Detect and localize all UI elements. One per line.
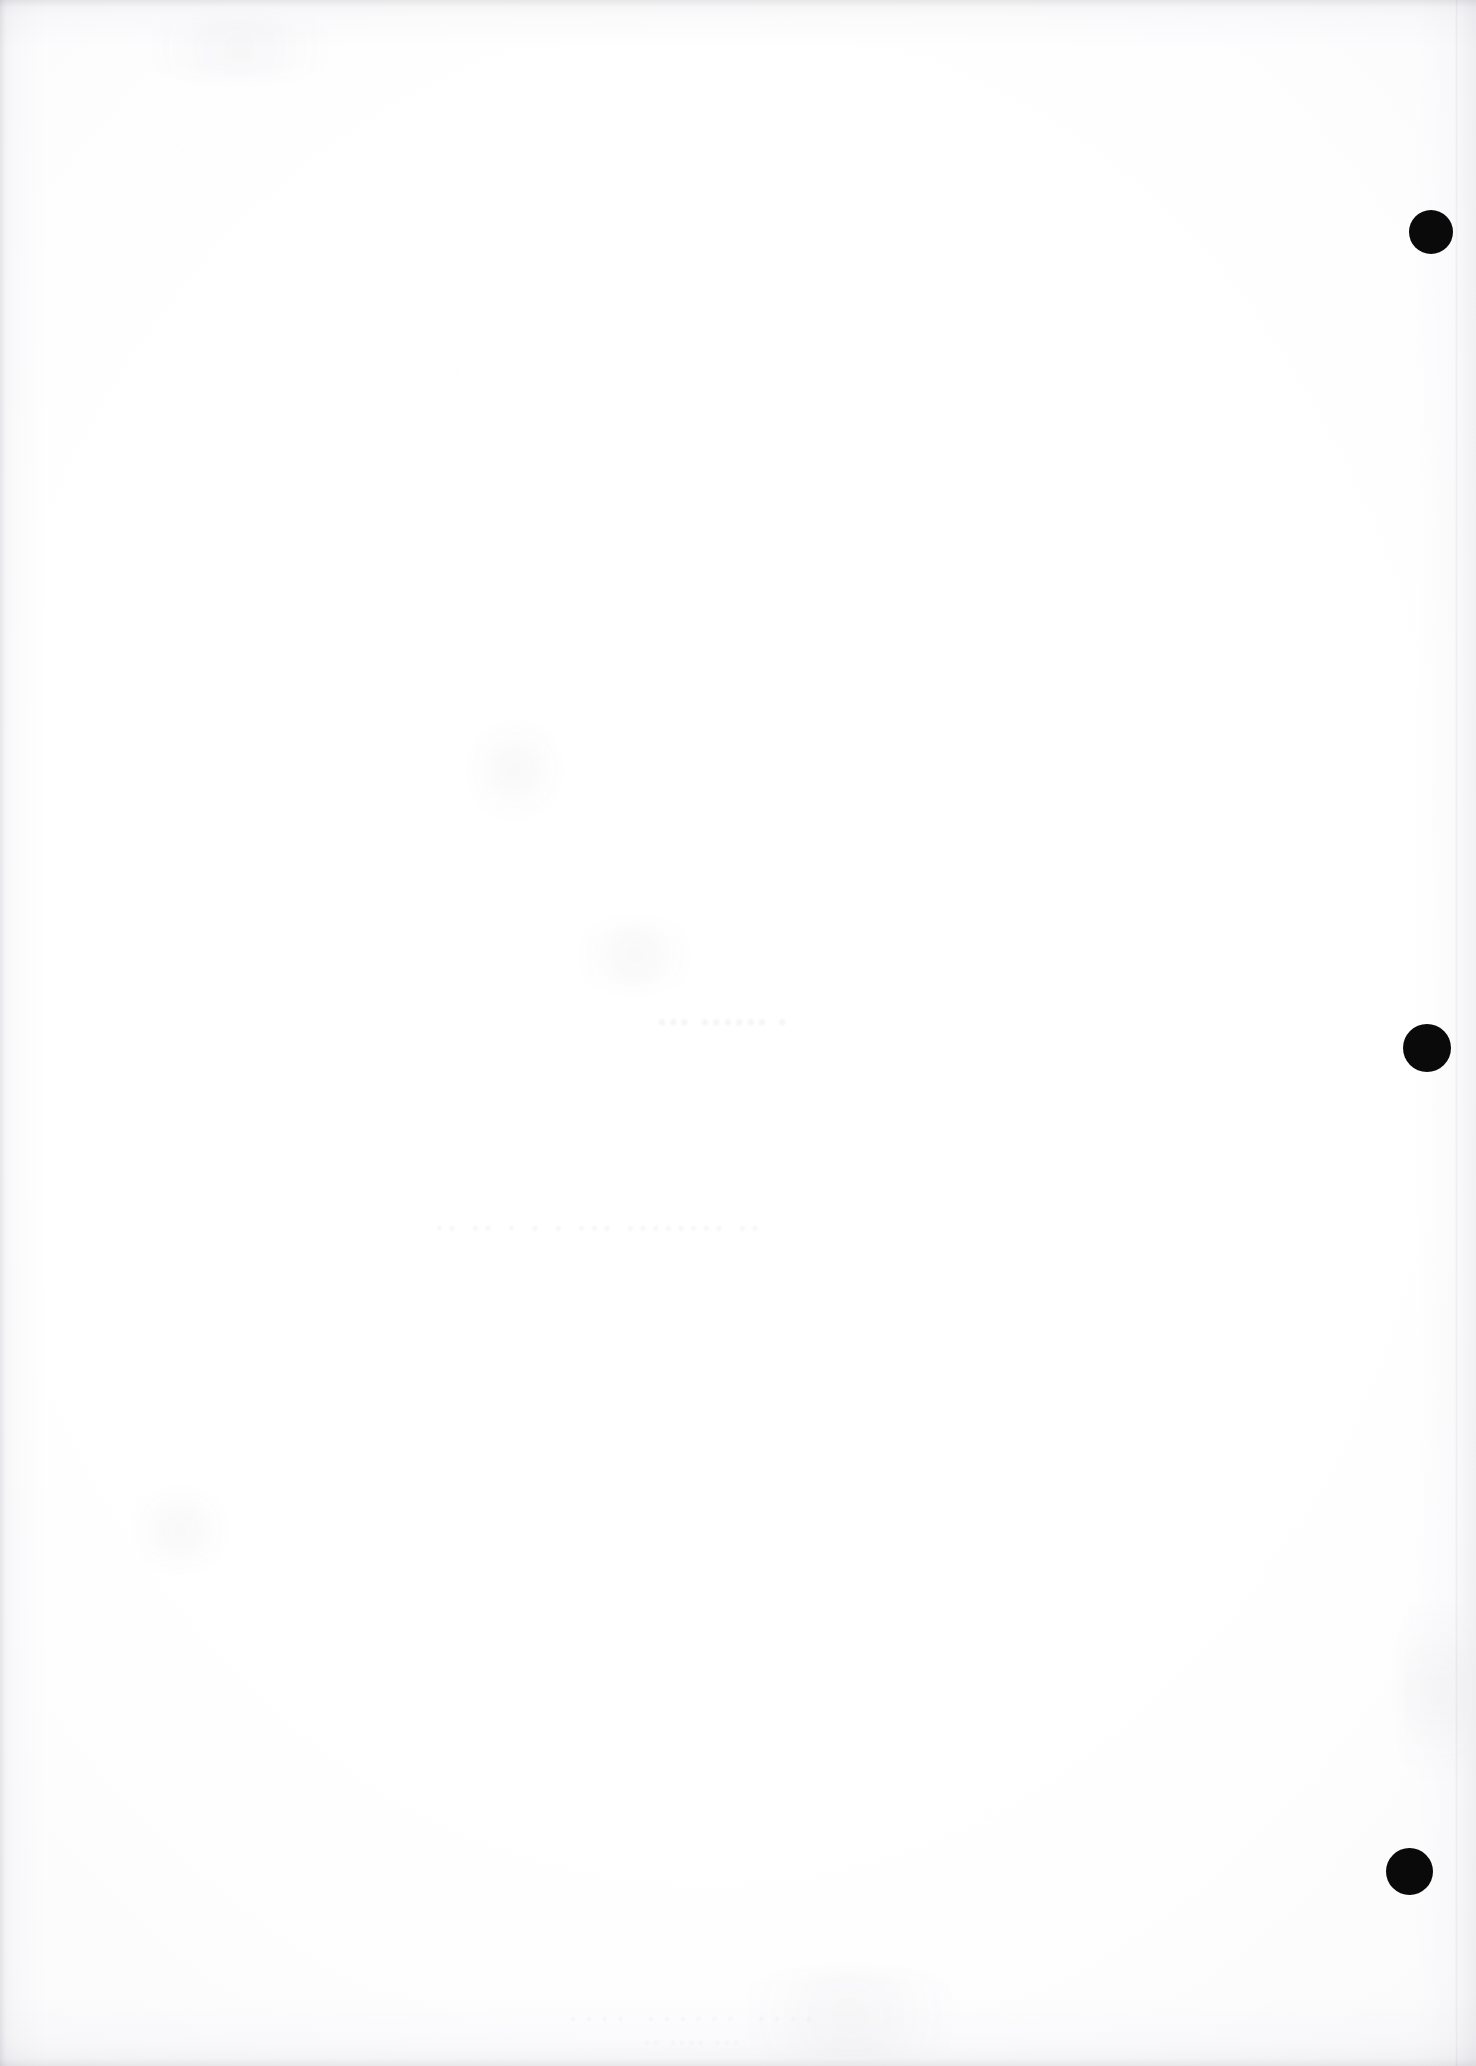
paper-smudge [700, 1970, 1000, 2060]
punch-mark-bottom-icon [1386, 1848, 1433, 1895]
page-edge-right [1455, 0, 1458, 2066]
showthrough-line: ••• •••• •• [640, 2035, 739, 2052]
page-edge-top [0, 0, 1476, 7]
showthrough-line: •• •••••••• ••• • • • •• •• [430, 1218, 758, 1240]
scanned-page: • •••••• ••••• •••••••• ••• • • • •• •••… [0, 0, 1476, 2066]
paper-smudge [560, 920, 710, 990]
paper-smudge [470, 710, 560, 830]
punch-mark-middle-icon [1403, 1024, 1451, 1072]
paper-smudge [110, 18, 370, 78]
paper-grain-texture [0, 0, 1476, 2066]
punch-mark-top-icon [1409, 210, 1453, 254]
page-edge-bottom [0, 2058, 1476, 2066]
showthrough-line: •••• •••••• •••• [560, 2010, 812, 2030]
paper-smudge [1400, 1560, 1470, 1820]
page-edge-left [0, 0, 6, 2066]
showthrough-line: • •••••• ••• [655, 1008, 787, 1039]
paper-smudge [120, 1490, 240, 1570]
